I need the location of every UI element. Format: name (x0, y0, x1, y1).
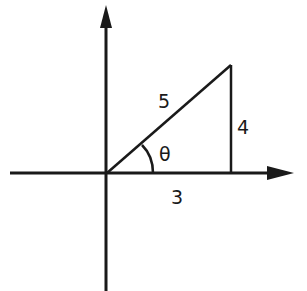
adjacent-label: 3 (171, 186, 183, 208)
opposite-label: 4 (237, 116, 249, 138)
y-axis-arrow-icon (100, 5, 112, 28)
hypotenuse-label: 5 (158, 90, 170, 112)
angle-label: θ (159, 143, 171, 165)
triangle-diagram: 5 4 θ 3 (0, 0, 307, 291)
x-axis-arrow-icon (267, 166, 294, 180)
y-axis (100, 5, 112, 291)
angle-arc (142, 145, 153, 173)
